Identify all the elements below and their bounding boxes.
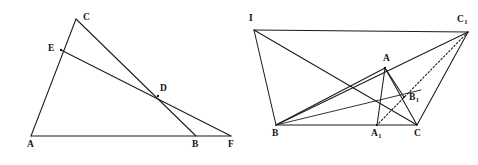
segment-C-B (76, 19, 196, 136)
segment-E-F (61, 50, 231, 136)
point-label-E: E (48, 44, 54, 54)
vertex-dot-E (60, 49, 62, 51)
point-label-A1: A1 (371, 129, 381, 139)
segment-A-A1 (377, 68, 385, 125)
geometry-figure-canvas: A C E D B F I C1 A B1 B A1 C (0, 0, 478, 165)
point-label-B1: B1 (409, 93, 419, 103)
segment-B-C1 (276, 32, 468, 125)
point-label-C: C (83, 13, 90, 23)
segment-C-C1 (417, 32, 468, 125)
vertex-dot-B1 (403, 96, 405, 98)
vertex-dot-A (384, 67, 386, 69)
point-label-C1-sub: 1 (464, 18, 467, 25)
point-label-C1-letter: C (457, 14, 464, 24)
figures-svg (0, 0, 478, 165)
point-label-I: I (249, 14, 253, 24)
point-label-B1-sub: 1 (416, 96, 419, 103)
point-label-B: B (192, 140, 198, 150)
segment-A-C (31, 19, 76, 136)
point-label-A1-letter: A (371, 128, 378, 138)
point-label-D: D (160, 84, 167, 94)
left-figure-group (31, 19, 231, 136)
point-label-A1-sub: 1 (378, 132, 381, 139)
vertex-dot-D (157, 95, 159, 97)
point-label-A-right: A (383, 54, 390, 64)
vertex-dot-A1 (376, 124, 378, 126)
segment-A-B1 (385, 68, 404, 97)
point-label-C1: C1 (457, 15, 467, 25)
point-label-F: F (228, 140, 234, 150)
segment-B-B1 (276, 90, 421, 125)
point-label-C-right: C (414, 129, 421, 139)
right-figure-group (254, 30, 468, 126)
point-label-B1-letter: B (409, 92, 415, 102)
point-label-B-right: B (272, 129, 278, 139)
segment-I-B (254, 30, 276, 125)
point-label-A: A (27, 140, 34, 150)
segment-I-C1 (254, 30, 468, 32)
